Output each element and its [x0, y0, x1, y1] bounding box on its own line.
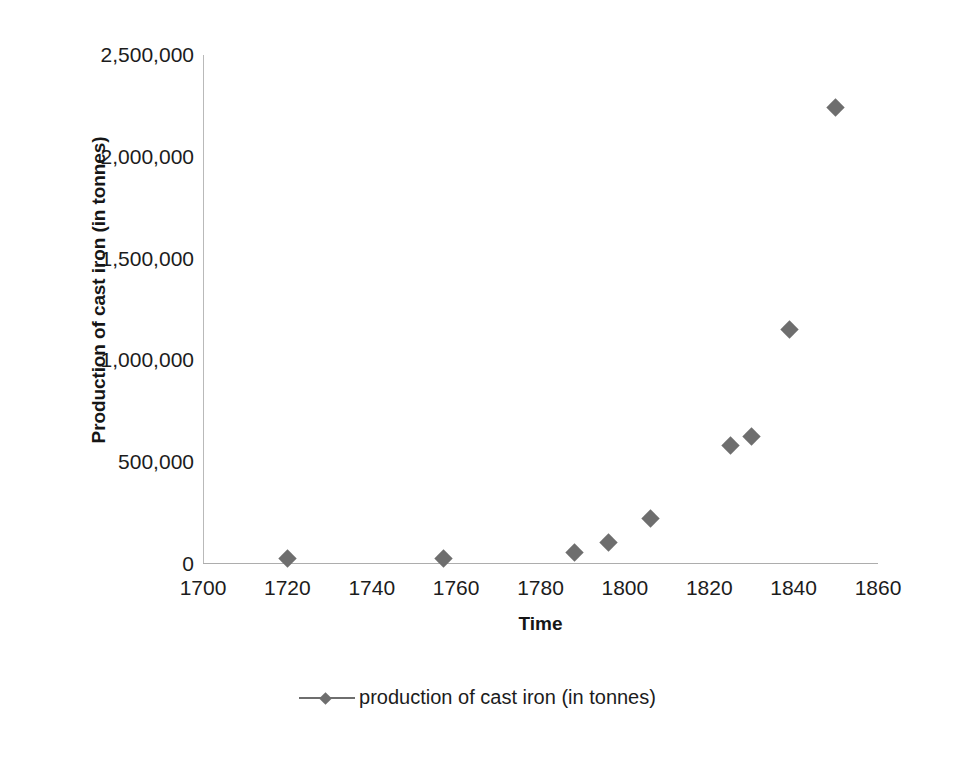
y-axis-tick-label: 1,500,000 — [62, 247, 194, 271]
y-axis-title: Production of cast iron (in tonnes) — [86, 20, 112, 560]
y-axis-tick-label: 500,000 — [62, 450, 194, 474]
legend-item[interactable]: production of cast iron (in tonnes) — [299, 686, 656, 709]
y-axis-tick-label: 1,000,000 — [62, 348, 194, 372]
y-axis-tick-label: 0 — [62, 552, 194, 576]
data-point — [565, 544, 583, 562]
plot-area — [203, 55, 878, 564]
y-axis-tick-label: 2,000,000 — [62, 145, 194, 169]
data-point — [721, 437, 739, 455]
legend-item-label: production of cast iron (in tonnes) — [359, 686, 656, 709]
data-point — [742, 428, 760, 446]
y-axis-tick-labels: 0500,0001,000,0001,500,0002,000,0002,500… — [62, 0, 194, 767]
legend-marker-icon — [299, 691, 355, 705]
chart-container: 0500,0001,000,0001,500,0002,000,0002,500… — [0, 0, 955, 767]
data-point — [641, 509, 659, 527]
chart-legend: production of cast iron (in tonnes) — [0, 686, 955, 709]
data-point — [827, 99, 845, 117]
data-point — [434, 549, 452, 567]
data-point — [278, 550, 296, 568]
data-point — [599, 533, 617, 551]
x-axis-tick-label: 1860 — [823, 576, 933, 600]
x-axis-title: Time — [203, 613, 878, 635]
y-axis-tick-label: 2,500,000 — [62, 43, 194, 67]
data-point — [780, 321, 798, 339]
